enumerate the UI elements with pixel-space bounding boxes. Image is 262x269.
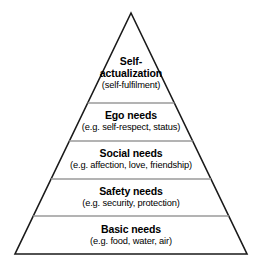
pyramid-tier-safety-needs: Safety needs (e.g. security, protection) [0,186,262,209]
tier-title-ego-needs: Ego needs [0,110,262,122]
tier-subtitle-ego-needs: (e.g. self-respect, status) [0,122,262,132]
maslow-pyramid-diagram: Self-actualization (self-fulfilment) Ego… [0,0,262,269]
tier-title-safety-needs: Safety needs [0,186,262,198]
tier-subtitle-safety-needs: (e.g. security, protection) [0,198,262,208]
pyramid-tier-self-actualization: Self-actualization (self-fulfilment) [0,56,262,90]
tier-subtitle-basic-needs: (e.g. food, water, air) [0,236,262,246]
tier-title-self-actualization: Self-actualization [0,56,262,80]
tier-title-social-needs: Social needs [0,148,262,160]
pyramid-tier-basic-needs: Basic needs (e.g. food, water, air) [0,224,262,247]
tier-subtitle-self-actualization: (self-fulfilment) [0,80,262,90]
tier-title-basic-needs: Basic needs [0,224,262,236]
pyramid-tier-ego-needs: Ego needs (e.g. self-respect, status) [0,110,262,133]
pyramid-tier-social-needs: Social needs (e.g. affection, love, frie… [0,148,262,171]
tier-subtitle-social-needs: (e.g. affection, love, friendship) [0,160,262,170]
tier-label-layer: Self-actualization (self-fulfilment) Ego… [0,0,262,269]
